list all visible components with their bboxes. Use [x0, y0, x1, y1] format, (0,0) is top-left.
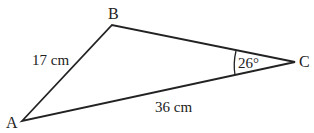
side-label-ab: 17 cm [32, 52, 69, 68]
angle-label-c: 26° [238, 55, 259, 71]
vertex-label-c: C [299, 53, 310, 70]
angle-c-arc [234, 51, 236, 75]
vertex-label-b: B [108, 5, 119, 22]
side-label-ac: 36 cm [155, 99, 192, 115]
triangle-diagram: B A C 17 cm 36 cm 26° [0, 0, 314, 133]
vertex-label-a: A [6, 114, 18, 131]
